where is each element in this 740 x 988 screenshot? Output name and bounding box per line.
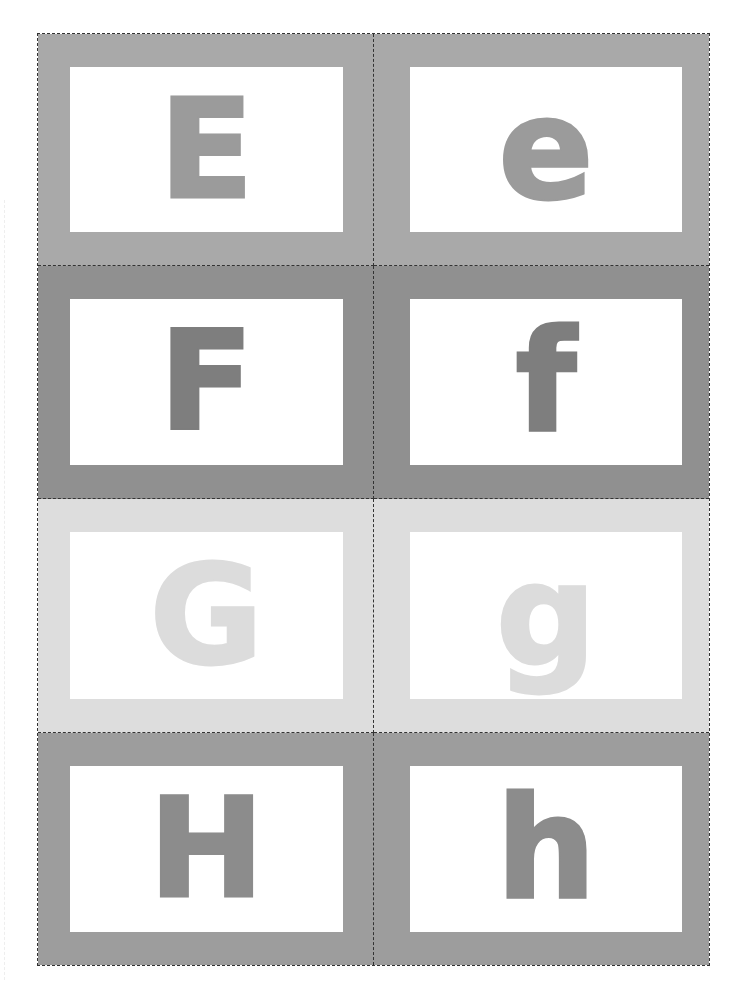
letter-glyph: h [496, 779, 596, 919]
card-face: g [410, 532, 682, 699]
letter-glyph: E [159, 81, 253, 219]
card-face: H [70, 766, 343, 932]
flashcard-e-lower: e [374, 34, 709, 266]
card-face: F [70, 299, 343, 465]
card-face: h [410, 766, 682, 932]
card-face: E [70, 67, 343, 232]
flashcard-G-upper: G [38, 499, 374, 733]
flashcard-sheet: E e F f G g H h [37, 33, 710, 966]
letter-glyph: g [496, 546, 596, 686]
flashcard-g-lower: g [374, 499, 709, 733]
card-face: e [410, 67, 682, 232]
letter-glyph: e [499, 80, 594, 220]
letter-glyph: G [150, 547, 263, 685]
flashcard-h-lower: h [374, 733, 709, 965]
flashcard-H-upper: H [38, 733, 374, 965]
card-face: G [70, 532, 343, 699]
card-face: f [410, 299, 682, 465]
flashcard-f-lower: f [374, 266, 709, 499]
letter-glyph: H [149, 780, 265, 918]
scan-margin-marks [4, 200, 7, 980]
flashcard-F-upper: F [38, 266, 374, 499]
letter-glyph: F [159, 313, 253, 451]
letter-glyph: f [516, 312, 577, 452]
flashcard-E-upper: E [38, 34, 374, 266]
